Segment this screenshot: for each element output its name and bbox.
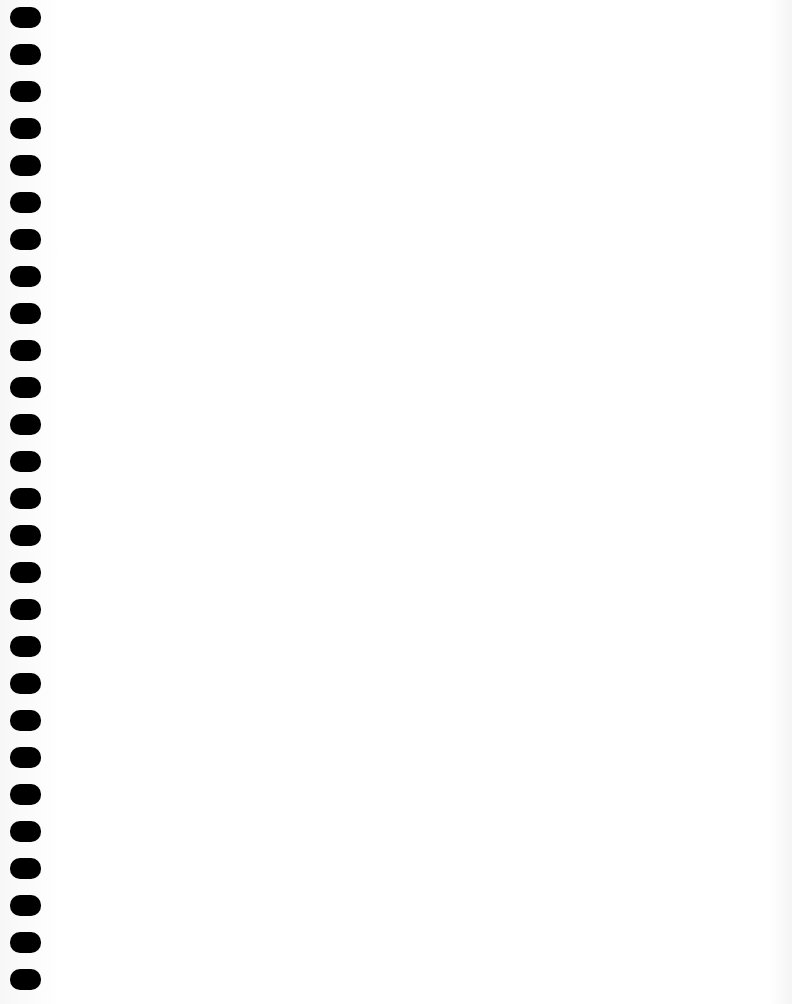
binding-hole <box>10 488 41 509</box>
binding-hole <box>10 895 41 916</box>
binding-hole <box>10 44 41 65</box>
binding-hole <box>10 377 41 398</box>
binding-hole <box>10 525 41 546</box>
binding-hole <box>10 451 41 472</box>
binding-hole <box>10 7 41 28</box>
binding-hole <box>10 229 41 250</box>
binding-hole <box>10 932 41 953</box>
binding-hole <box>10 340 41 361</box>
binding-hole <box>10 969 41 990</box>
binding-hole <box>10 81 41 102</box>
binding-hole <box>10 266 41 287</box>
binding-hole <box>10 821 41 842</box>
binding-hole <box>10 118 41 139</box>
binding-hole <box>10 303 41 324</box>
binding-holes <box>10 0 42 1004</box>
blank-page <box>0 0 792 1004</box>
binding-hole <box>10 414 41 435</box>
binding-hole <box>10 858 41 879</box>
binding-hole <box>10 192 41 213</box>
binding-hole <box>10 673 41 694</box>
binding-hole <box>10 784 41 805</box>
binding-hole <box>10 562 41 583</box>
binding-hole <box>10 155 41 176</box>
binding-hole <box>10 747 41 768</box>
binding-hole <box>10 636 41 657</box>
binding-hole <box>10 599 41 620</box>
binding-hole <box>10 710 41 731</box>
